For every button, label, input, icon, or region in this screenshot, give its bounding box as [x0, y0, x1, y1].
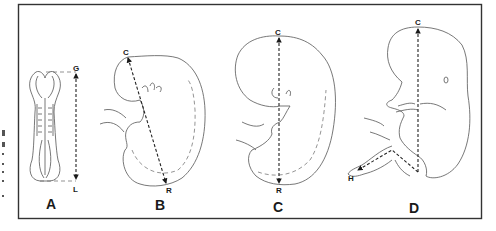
panel-c: C R C: [235, 28, 335, 215]
measure-line-b: [128, 58, 166, 183]
embryo-c-drawing: [235, 36, 335, 185]
panel-label-c: C: [273, 199, 283, 215]
point-c-c: C: [275, 28, 281, 37]
figure-frame: [19, 5, 482, 219]
panel-a: G L A: [30, 64, 80, 212]
point-r-c: R: [276, 186, 282, 195]
panel-label-b: B: [155, 197, 165, 213]
panel-b: C R B: [100, 48, 205, 213]
embryo-d-drawing: [348, 27, 470, 178]
panel-label-a: A: [46, 196, 56, 212]
point-h: H: [348, 174, 354, 183]
embryo-a-drawing: [30, 71, 61, 181]
measure-line-d-leg: [358, 150, 418, 172]
panel-d: C H D: [348, 18, 470, 216]
panel-label-d: D: [409, 200, 419, 216]
point-r-b: R: [166, 186, 172, 195]
embryo-b-drawing: [100, 56, 205, 186]
point-c-d: C: [415, 18, 421, 27]
cropped-side-text: [2, 130, 5, 197]
embryo-measurement-figure: G L A C R B C R C: [0, 0, 496, 231]
point-l: L: [73, 185, 78, 194]
point-c-b: C: [123, 48, 129, 57]
point-g: G: [73, 64, 79, 73]
